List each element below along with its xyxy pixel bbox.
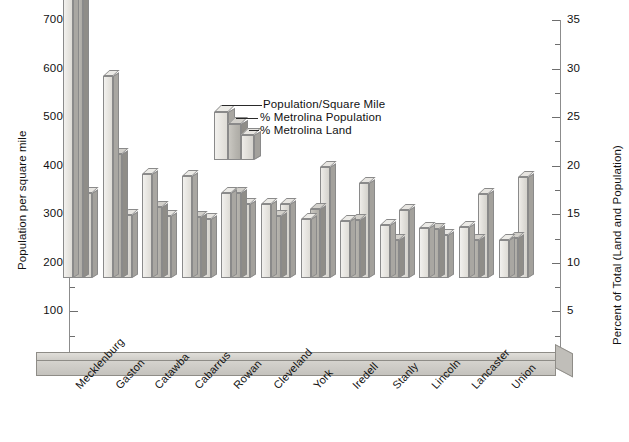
bar-side xyxy=(122,150,128,278)
category-label-cabarrus: Cabarrus xyxy=(192,349,233,391)
bar-side xyxy=(281,212,287,278)
legend-label-metrolina-population: % Metrolina Population xyxy=(260,111,382,123)
bar-side xyxy=(311,215,317,278)
bar-side xyxy=(369,179,375,278)
legend-label-metrolina-land: % Metrolina Land xyxy=(260,124,352,136)
bar-side xyxy=(330,164,336,278)
chart-canvas: 100200300400500600700 Population per squ… xyxy=(0,0,629,442)
bar-side xyxy=(162,203,168,278)
bar-side xyxy=(152,170,158,278)
category-label-lancaster: Lancaster xyxy=(469,346,512,391)
category-label-lincoln: Lincoln xyxy=(429,356,463,391)
bar-iredell-series-0 xyxy=(340,221,350,278)
bar-side xyxy=(132,211,138,278)
category-label-rowan: Rowan xyxy=(231,357,264,391)
legend-swatch-metrolina-population xyxy=(228,124,241,160)
bar-face xyxy=(499,240,509,278)
bar-side xyxy=(390,221,396,278)
bar-side xyxy=(399,236,405,278)
bar-side xyxy=(171,212,177,278)
bar-side xyxy=(479,236,485,278)
legend-swatch-metrolina-land xyxy=(241,135,254,160)
category-label-cleveland: Cleveland xyxy=(271,346,314,391)
bar-face xyxy=(261,204,271,278)
bar-catawba-series-0 xyxy=(142,174,152,278)
bar-side xyxy=(528,173,534,278)
chart-legend: Population/Square Mile % Metrolina Popul… xyxy=(214,98,544,160)
bar-side xyxy=(350,217,356,278)
bar-cabarrus-series-0 xyxy=(182,176,192,278)
category-label-york: York xyxy=(311,367,335,392)
bar-side xyxy=(231,189,237,278)
bar-side xyxy=(509,236,515,278)
bar-face xyxy=(340,221,350,278)
bar-lincoln-series-0 xyxy=(419,228,429,278)
bar-side xyxy=(250,200,256,278)
bar-face xyxy=(221,193,231,278)
bar-side xyxy=(290,200,296,278)
bar-rowan-series-0 xyxy=(221,193,231,278)
bar-side xyxy=(448,232,454,278)
bar-side xyxy=(211,215,217,278)
bar-side xyxy=(518,234,524,278)
bar-face xyxy=(182,176,192,278)
bar-face xyxy=(380,225,390,278)
legend-label-population-density: Population/Square Mile xyxy=(263,98,385,110)
bar-union-series-0 xyxy=(499,240,509,278)
legend-swatch-population-density xyxy=(214,112,228,160)
bar-side xyxy=(360,216,366,278)
bar-gaston-series-0 xyxy=(103,76,113,278)
bar-side xyxy=(241,189,247,278)
bar-lancaster-series-0 xyxy=(459,227,469,278)
bar-side xyxy=(469,223,475,278)
bar-side xyxy=(271,200,277,278)
bar-side xyxy=(113,73,119,278)
bar-side xyxy=(409,206,415,278)
bar-face xyxy=(63,0,73,278)
bar-side xyxy=(83,0,89,278)
category-label-iredell: Iredell xyxy=(350,360,380,391)
bar-side xyxy=(488,191,494,278)
legend-leader-line-2 xyxy=(236,118,258,119)
bar-cleveland-series-0 xyxy=(261,204,271,278)
bar-side xyxy=(192,172,198,278)
bar-side xyxy=(439,226,445,278)
legend-leader-line-1 xyxy=(222,105,262,106)
bar-face xyxy=(419,228,429,278)
legend-leader-line-3 xyxy=(249,130,259,131)
bar-side xyxy=(429,224,435,278)
bar-side xyxy=(201,213,207,278)
bar-face xyxy=(142,174,152,278)
category-label-union: Union xyxy=(509,361,538,391)
bar-side xyxy=(92,189,98,278)
bar-york-series-0 xyxy=(301,219,311,278)
bar-face xyxy=(301,219,311,278)
bar-face xyxy=(103,76,113,278)
category-label-gaston: Gaston xyxy=(113,356,147,391)
category-label-stanly: Stanly xyxy=(390,360,420,391)
bar-stanly-series-0 xyxy=(380,225,390,278)
category-label-catawba: Catawba xyxy=(152,350,191,391)
bar-face xyxy=(459,227,469,278)
bar-mecklenburg-series-0 xyxy=(63,0,73,278)
bar-side xyxy=(73,0,79,278)
bar-side xyxy=(320,205,326,278)
